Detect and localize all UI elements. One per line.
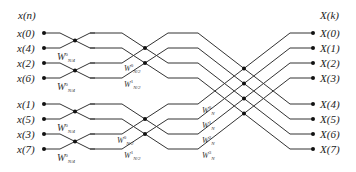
- twiddle-factor: W0N: [202, 104, 215, 118]
- signal-lines: [44, 33, 313, 149]
- nodes: [42, 31, 315, 151]
- twiddle-factor: W0N/2: [117, 134, 133, 148]
- output-label: X(4): [320, 99, 340, 110]
- input-header: x(n): [18, 10, 36, 21]
- output-label: X(2): [320, 58, 340, 69]
- output-header: X(k): [320, 10, 339, 21]
- output-label: X(7): [320, 144, 340, 155]
- twiddle-factor: W3N: [202, 149, 215, 163]
- input-label: x(6): [17, 73, 35, 84]
- twiddle-factor: W2N: [202, 134, 215, 148]
- output-label: X(0): [320, 28, 340, 39]
- output-label: X(1): [320, 43, 340, 54]
- input-label: x(5): [17, 114, 35, 125]
- twiddle-factor: W0N/4: [57, 152, 75, 166]
- twiddle-factor: W0N/4: [57, 81, 75, 95]
- twiddle-factor: W0N/4: [57, 122, 75, 136]
- twiddle-factor: W1N: [202, 119, 215, 133]
- output-label: X(5): [320, 114, 340, 125]
- input-label: x(1): [17, 99, 35, 110]
- twiddle-factor: W0N/4: [57, 51, 75, 65]
- output-label: X(6): [320, 129, 340, 140]
- input-label: x(4): [17, 43, 35, 54]
- input-label: x(2): [17, 58, 35, 69]
- twiddle-factor: W1N/2: [124, 78, 140, 92]
- input-label: x(0): [17, 28, 35, 39]
- twiddle-factor: W1N/2: [124, 149, 140, 163]
- output-label: X(3): [320, 73, 340, 84]
- twiddle-factor: W0N/2: [124, 62, 140, 76]
- butterfly-graph: [0, 0, 356, 172]
- input-label: x(7): [17, 144, 35, 155]
- input-label: x(3): [17, 129, 35, 140]
